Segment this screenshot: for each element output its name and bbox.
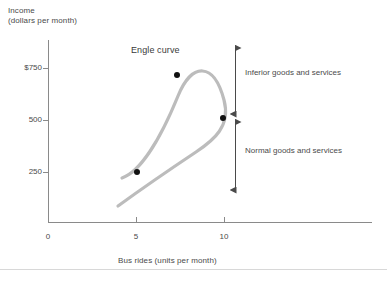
bottom-divider <box>0 269 387 270</box>
y-tick-label-500: 500 <box>6 115 42 124</box>
engle-curve-figure: Income (dollars per month) Bus rides (un… <box>0 0 387 282</box>
data-point-500 <box>220 115 226 121</box>
inferior-goods-label: Inferior goods and services <box>245 68 341 77</box>
y-axis-title-line2: (dollars per month) <box>8 16 77 26</box>
x-tick-label-0: 0 <box>33 232 63 241</box>
x-axis-title: Bus rides (units per month) <box>118 256 217 266</box>
engle-curve-path <box>118 71 226 206</box>
engle-curve-label: Engle curve <box>131 45 180 55</box>
data-point-700 <box>174 72 180 78</box>
x-tick-label-10: 10 <box>209 232 239 241</box>
normal-goods-label: Normal goods and services <box>245 146 342 155</box>
y-axis-title-line1: Income <box>8 6 35 15</box>
y-axis-title: Income (dollars per month) <box>8 6 77 26</box>
y-tick-label-750: $750 <box>6 63 42 72</box>
y-tick-label-250: 250 <box>6 167 42 176</box>
data-point-250 <box>134 169 140 175</box>
x-tick-label-5: 5 <box>121 232 151 241</box>
